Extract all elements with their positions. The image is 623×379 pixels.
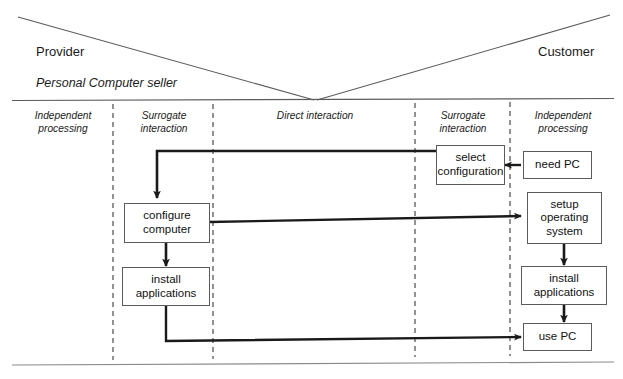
column-header-line2: interaction	[118, 123, 210, 136]
customer-title: Customer	[538, 44, 594, 59]
node-setup-operating-system[interactable]: setup operating system	[527, 192, 602, 244]
provider-title: Provider	[36, 44, 84, 59]
column-header-line2: processing	[18, 123, 108, 136]
node-label-line2: operating	[541, 211, 589, 225]
column-header-line2: interaction	[419, 123, 507, 136]
node-install-applications-provider[interactable]: install applications	[122, 267, 210, 306]
column-header-provider-surrogate: Surrogate interaction	[118, 110, 210, 136]
node-select-configuration[interactable]: select configuration	[436, 145, 505, 185]
node-need-pc[interactable]: need PC	[523, 151, 592, 179]
node-label-line1: select	[438, 151, 504, 165]
column-header-line1: Direct interaction	[218, 110, 412, 123]
column-header-line1: Surrogate	[419, 110, 507, 123]
node-label-line2: computer	[143, 223, 191, 237]
column-header-line2: processing	[514, 123, 612, 136]
node-use-pc[interactable]: use PC	[523, 323, 592, 351]
node-label-line1: setup	[541, 198, 589, 212]
column-header-provider-independent: Independent processing	[18, 110, 108, 136]
column-header-customer-independent: Independent processing	[514, 110, 612, 136]
node-label-line1: use PC	[539, 330, 577, 344]
node-label-line1: configure	[143, 209, 191, 223]
node-configure-computer[interactable]: configure computer	[124, 203, 210, 243]
column-header-line1: Independent	[18, 110, 108, 123]
node-label-line1: need PC	[535, 158, 580, 172]
node-label-line2: applications	[534, 286, 595, 300]
node-label-line2: applications	[136, 287, 197, 301]
column-header-line1: Independent	[514, 110, 612, 123]
service-blueprint-diagram: Provider Customer Personal Computer sell…	[0, 0, 623, 379]
node-label-line2: configuration	[438, 165, 504, 179]
connector-install-applications-to-use-pc	[166, 305, 521, 341]
column-header-direct-interaction: Direct interaction	[218, 110, 412, 123]
connector-select-configuration-to-configure-computer	[157, 151, 439, 198]
connector-configure-computer-to-setup-operating-system	[209, 216, 521, 222]
line-of-visibility-bottom	[12, 362, 614, 365]
node-install-applications-customer[interactable]: install applications	[521, 266, 607, 305]
node-label-line1: install	[534, 272, 595, 286]
column-header-customer-surrogate: Surrogate interaction	[419, 110, 507, 136]
node-label-line3: system	[541, 225, 589, 239]
provider-subtitle: Personal Computer seller	[36, 76, 177, 90]
column-header-line1: Surrogate	[118, 110, 210, 123]
node-label-line1: install	[136, 273, 197, 287]
